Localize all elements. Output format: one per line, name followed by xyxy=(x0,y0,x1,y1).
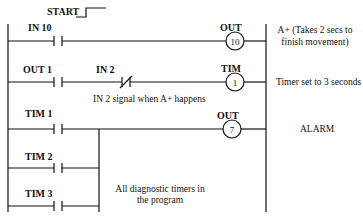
normally-open-contact-icon xyxy=(54,36,62,46)
coil-number: 10 xyxy=(231,37,241,47)
rung-3-sub-note: All diagnostic timers in xyxy=(115,184,205,194)
rung-1-note: A+ (Takes 2 secs to xyxy=(278,25,353,36)
normally-open-contact-icon xyxy=(54,77,62,87)
rung-3: TIM 1 TIM 2 TIM 3 OUT 7 ALARM All diagno xyxy=(8,108,335,212)
contact-label-in2: IN 2 xyxy=(96,64,115,75)
rung-2: OUT 1 IN 2 TIM 1 Timer set to 3 seconds … xyxy=(8,63,361,104)
rung-2-note: Timer set to 3 seconds xyxy=(276,77,361,87)
rung-3-sub-note-line2: the program xyxy=(137,195,184,205)
contact-label-tim3: TIM 3 xyxy=(25,188,53,199)
normally-open-contact-icon xyxy=(54,124,62,134)
coil-type-label: OUT xyxy=(220,22,242,33)
normally-open-contact-icon xyxy=(54,201,62,211)
rising-edge-pulse-icon xyxy=(76,8,106,17)
ladder-diagram: START IN 10 OUT 10 A+ (Takes 2 secs to f… xyxy=(0,0,363,220)
contact-label-out1: OUT 1 xyxy=(23,64,52,75)
rung-3-note: ALARM xyxy=(300,124,335,134)
contact-label-tim2: TIM 2 xyxy=(25,151,53,162)
rung-2-sub-note: IN 2 signal when A+ happens xyxy=(93,94,206,104)
coil-type-label: TIM xyxy=(221,63,242,74)
coil-number: 1 xyxy=(233,78,238,88)
contact-label-in10: IN 10 xyxy=(28,22,52,33)
rung-1-note-line2: finish movement) xyxy=(281,37,348,48)
coil-type-label: OUT xyxy=(217,110,239,121)
normally-open-contact-icon xyxy=(54,163,62,173)
rung-1: IN 10 OUT 10 A+ (Takes 2 secs to finish … xyxy=(8,22,353,50)
coil-number: 7 xyxy=(230,125,235,135)
contact-label-tim1: TIM 1 xyxy=(25,108,53,119)
start-label: START xyxy=(47,6,80,17)
